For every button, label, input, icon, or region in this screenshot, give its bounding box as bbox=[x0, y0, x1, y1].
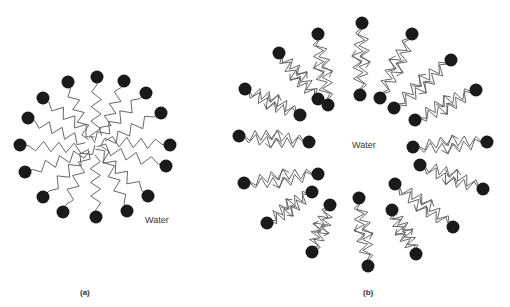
inner-polar-head bbox=[306, 186, 319, 199]
polar-head bbox=[121, 205, 134, 218]
outer-polar-head bbox=[306, 246, 319, 259]
hydrocarbon-tail bbox=[43, 98, 95, 137]
outer-polar-head bbox=[273, 47, 286, 60]
inner-polar-head bbox=[409, 114, 422, 127]
micelle-diagram bbox=[0, 0, 510, 307]
hydrocarbon-tail bbox=[95, 149, 148, 196]
outer-polar-head bbox=[238, 177, 251, 190]
outer-polar-head bbox=[477, 183, 490, 196]
outer-polar-head bbox=[406, 28, 419, 41]
inner-polar-head bbox=[388, 102, 401, 115]
inner-polar-head bbox=[312, 93, 325, 106]
inner-tail bbox=[394, 74, 426, 108]
outer-tail bbox=[419, 60, 451, 94]
inner-polar-head bbox=[324, 199, 337, 212]
water-label-a: Water bbox=[145, 215, 169, 225]
inner-polar-head bbox=[294, 109, 307, 122]
hydrocarbon-tail bbox=[90, 155, 101, 217]
outer-polar-head bbox=[445, 54, 458, 67]
outer-polar-head bbox=[410, 248, 423, 261]
outer-polar-head bbox=[261, 217, 274, 230]
outer-polar-head bbox=[481, 136, 494, 149]
polar-head bbox=[37, 191, 50, 204]
polar-head bbox=[160, 160, 173, 173]
inner-polar-head bbox=[389, 178, 402, 191]
polar-head bbox=[19, 166, 32, 179]
outer-tail bbox=[352, 23, 364, 68]
polar-head bbox=[14, 139, 27, 152]
polar-head bbox=[37, 92, 50, 105]
inner-polar-head bbox=[374, 92, 387, 105]
hydrocarbon-tail bbox=[90, 77, 101, 143]
inner-polar-head bbox=[414, 159, 427, 172]
inner-polar-head bbox=[407, 141, 420, 154]
polar-head bbox=[90, 211, 103, 224]
polar-head bbox=[164, 139, 177, 152]
polar-head bbox=[118, 75, 131, 88]
outer-polar-head bbox=[312, 28, 325, 41]
hydrocarbon-tail bbox=[102, 146, 127, 211]
caption-b: (b) bbox=[363, 288, 373, 297]
outer-polar-head bbox=[447, 221, 460, 234]
inner-polar-head bbox=[386, 204, 399, 217]
inner-polar-head bbox=[312, 168, 325, 181]
inner-polar-head bbox=[354, 89, 367, 102]
polar-head bbox=[62, 76, 75, 89]
polar-head bbox=[22, 112, 35, 125]
polar-head bbox=[155, 107, 168, 120]
polar-head bbox=[142, 190, 155, 203]
outer-polar-head bbox=[470, 84, 483, 97]
inner-tail bbox=[357, 51, 369, 96]
hydrocarbon-tail bbox=[20, 141, 89, 153]
hydrocarbon-tail bbox=[63, 150, 90, 212]
caption-a: (a) bbox=[80, 288, 90, 297]
water-label-b: Water bbox=[352, 140, 376, 150]
inner-polar-head bbox=[303, 136, 316, 149]
hydrocarbon-tail bbox=[43, 145, 95, 197]
outer-polar-head bbox=[233, 130, 246, 143]
inner-polar-head bbox=[353, 192, 366, 205]
hydrocarbon-tail bbox=[99, 81, 124, 136]
polar-head bbox=[91, 71, 104, 84]
polar-head bbox=[57, 206, 70, 219]
outer-polar-head bbox=[362, 260, 375, 273]
outer-polar-head bbox=[356, 17, 369, 30]
polar-head bbox=[140, 87, 153, 100]
outer-polar-head bbox=[239, 83, 252, 96]
